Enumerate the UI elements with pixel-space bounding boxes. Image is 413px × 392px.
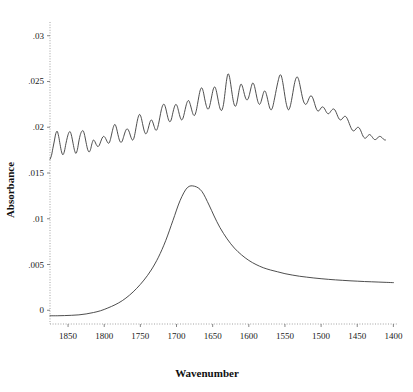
series-line-upper	[50, 74, 385, 159]
y-tick-label: .005	[28, 260, 44, 270]
y-tick-label: .01	[33, 214, 44, 224]
y-axis-ticks: 0.005.01.015.02.025.03	[28, 31, 50, 316]
y-axis-title: Absorbance	[4, 162, 16, 218]
y-tick-label: .025	[28, 76, 44, 86]
x-tick-label: 1600	[240, 331, 259, 341]
y-tick-label: .02	[33, 122, 44, 132]
x-tick-label: 1400	[384, 331, 403, 341]
x-axis-title: Wavenumber	[175, 367, 239, 379]
axes: 1850180017501700165016001550150014501400…	[28, 22, 403, 341]
plot-area: 1850180017501700165016001550150014501400…	[0, 0, 413, 392]
x-tick-label: 1700	[168, 331, 187, 341]
data-series-group	[50, 74, 393, 316]
x-tick-label: 1850	[59, 331, 78, 341]
x-tick-label: 1500	[312, 331, 331, 341]
x-tick-label: 1750	[131, 331, 150, 341]
series-line-lower	[50, 186, 393, 316]
spectrum-chart: 1850180017501700165016001550150014501400…	[0, 0, 413, 392]
x-tick-label: 1650	[204, 331, 223, 341]
x-axis-ticks: 1850180017501700165016001550150014501400	[59, 324, 403, 341]
x-tick-label: 1800	[95, 331, 114, 341]
y-tick-label: .015	[28, 168, 44, 178]
x-tick-label: 1450	[348, 331, 367, 341]
x-tick-label: 1550	[276, 331, 295, 341]
y-tick-label: 0	[40, 305, 45, 315]
y-tick-label: .03	[33, 31, 45, 41]
